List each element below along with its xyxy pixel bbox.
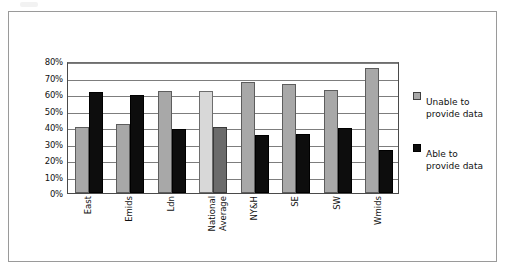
bar-unable[interactable] — [365, 68, 379, 193]
x-axis-tick-label: NY&H — [249, 196, 260, 270]
legend-swatch-unable-icon — [413, 92, 421, 100]
x-axis-tick-label: Ldn — [166, 196, 177, 270]
x-axis-tick-label: SE — [290, 196, 301, 270]
x-axis-tick-label-line: Wmids — [373, 196, 383, 225]
x-axis-tick-label-line: SE — [290, 196, 300, 207]
bar-able[interactable] — [130, 95, 144, 193]
bar-unable[interactable] — [199, 91, 213, 193]
legend-swatch-able-icon — [413, 144, 421, 152]
chart-legend: Unable toprovide data Able toprovide dat… — [413, 90, 497, 194]
bar-unable[interactable] — [241, 82, 255, 193]
plot-area — [67, 62, 399, 194]
bar-able[interactable] — [172, 129, 186, 193]
bar-able[interactable] — [89, 92, 103, 193]
y-axis-tick-label: 30% — [27, 140, 63, 150]
y-axis-tick-label: 60% — [27, 90, 63, 100]
x-axis-tick-label-line: NY&H — [249, 196, 259, 221]
x-axis-tick-label: SW — [332, 196, 343, 270]
y-axis-tick-label: 50% — [27, 107, 63, 117]
y-axis-labels: 80%70%60%50%40%30%20%10%0% — [27, 56, 63, 200]
x-axis-tick-label-line: SW — [332, 196, 342, 210]
x-axis-tick-label-line: Emids — [124, 196, 134, 222]
x-axis-tick-label-line: East — [83, 196, 93, 214]
bar-unable[interactable] — [116, 124, 130, 193]
x-axis-tick-label: Emids — [124, 196, 135, 270]
bar-able[interactable] — [255, 135, 269, 193]
chart-page: 80%70%60%50%40%30%20%10%0% EastEmidsLdnN… — [0, 0, 507, 275]
y-axis-tick-label: 40% — [27, 123, 63, 133]
x-axis-tick-label-line: Ldn — [166, 196, 176, 212]
page-artifact — [20, 2, 38, 7]
legend-label-unable: Unable toprovide data — [426, 97, 497, 120]
bar-unable[interactable] — [324, 90, 338, 193]
figure-frame: 80%70%60%50%40%30%20%10%0% EastEmidsLdnN… — [8, 11, 497, 262]
x-axis-tick-label: East — [83, 196, 94, 270]
bar-able[interactable] — [296, 134, 310, 193]
x-axis-tick-label: Wmids — [373, 196, 384, 270]
bar-unable[interactable] — [282, 84, 296, 193]
bar-able[interactable] — [379, 150, 393, 193]
legend-item-unable[interactable]: Unable toprovide data — [413, 90, 497, 120]
y-axis-tick-label: 20% — [27, 156, 63, 166]
bar-able[interactable] — [213, 127, 227, 193]
y-axis-tick-label: 0% — [27, 189, 63, 199]
legend-label-able: Able toprovide data — [426, 149, 497, 172]
y-axis-tick-label: 70% — [27, 74, 63, 84]
x-axis-tick-label: NationalAverage — [207, 196, 228, 270]
bar-unable[interactable] — [75, 127, 89, 193]
bars-layer — [68, 63, 398, 193]
legend-item-able[interactable]: Able toprovide data — [413, 142, 497, 172]
x-axis-tick-label-line: National — [207, 196, 217, 231]
x-axis-tick-label-line: Average — [218, 196, 229, 270]
x-axis-labels: EastEmidsLdnNationalAverageNY&HSESWWmids — [67, 196, 399, 270]
y-axis-tick-label: 80% — [27, 57, 63, 67]
bar-able[interactable] — [338, 128, 352, 193]
bar-unable[interactable] — [158, 91, 172, 193]
y-axis-tick-label: 10% — [27, 173, 63, 183]
